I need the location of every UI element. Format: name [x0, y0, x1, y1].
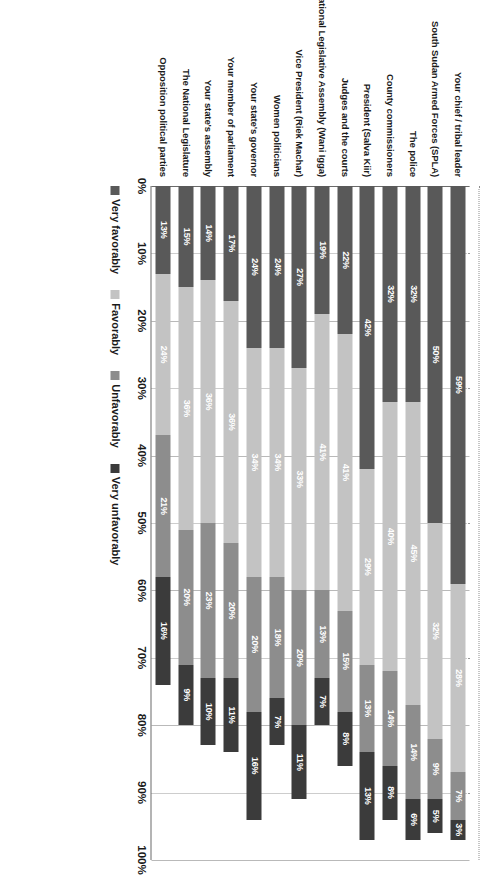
bar-segment-value: 40%: [385, 528, 394, 545]
bar-segment: 10%: [200, 678, 215, 745]
bar-segment-value: 7%: [272, 716, 281, 729]
category-label: President (Salva Kiir): [359, 0, 374, 182]
bar-segment-value: 14%: [408, 743, 417, 760]
bar-segment-value: 13%: [158, 221, 167, 238]
bar-segment: 32%: [427, 523, 442, 739]
bar-segment-value: 41%: [317, 444, 326, 461]
bar-segment: 34%: [269, 348, 284, 577]
legend-item[interactable]: Very favorably: [109, 186, 121, 274]
bar-segment-value: 10%: [203, 703, 212, 720]
plot-area: 59%28%7%3%50%32%9%5%32%45%14%6%32%40%14%…: [151, 186, 469, 860]
bar-segment: 20%: [223, 543, 238, 678]
bar-segment-value: 11%: [226, 707, 235, 724]
legend-label: Unfavorably: [109, 384, 121, 448]
bar-segment-value: 5%: [430, 810, 439, 823]
plot-top-border: [478, 186, 479, 860]
bar-row: 27%33%20%11%: [291, 186, 306, 860]
bar-segment: 19%: [314, 186, 329, 314]
bar-segment: 41%: [314, 314, 329, 590]
bar-segment: 9%: [427, 739, 442, 800]
category-label: Speaker of National Legislative Assembly…: [314, 0, 329, 182]
legend-swatch-icon: [111, 186, 120, 195]
legend-item[interactable]: Very unfavorably: [109, 464, 121, 566]
category-label: Your chief / tribal leader: [450, 0, 465, 182]
bar-segment-value: 6%: [408, 813, 417, 826]
bar-segment: 36%: [223, 301, 238, 544]
bar-segment-value: 29%: [362, 558, 371, 575]
bar-segment: 16%: [155, 577, 170, 685]
bar-segment: 15%: [178, 186, 193, 287]
bar-segment: 34%: [246, 348, 261, 577]
bar-segment: 14%: [405, 705, 420, 799]
bar-segment-value: 34%: [272, 454, 281, 471]
bar-segment-value: 18%: [272, 629, 281, 646]
bar-rows: 59%28%7%3%50%32%9%5%32%45%14%6%32%40%14%…: [151, 186, 469, 860]
category-label: The National Legislature: [178, 0, 193, 182]
legend-swatch-icon: [111, 371, 120, 380]
bar-segment: 24%: [155, 274, 170, 436]
bar-segment: 27%: [291, 186, 306, 368]
bar-segment-value: 59%: [453, 376, 462, 393]
bar-segment-value: 9%: [181, 689, 190, 702]
bar-segment-value: 16%: [158, 622, 167, 639]
bar-segment: 9%: [178, 665, 193, 726]
bar-segment-value: 20%: [181, 588, 190, 605]
bar-segment: 7%: [269, 698, 284, 745]
legend-item[interactable]: Favorably: [109, 290, 121, 355]
bar-segment: 21%: [155, 435, 170, 577]
bar-segment-value: 14%: [203, 224, 212, 241]
bar-segment: 13%: [359, 665, 374, 753]
bar-row: 50%32%9%5%: [427, 186, 442, 860]
bar-segment-value: 32%: [385, 285, 394, 302]
bar-segment-value: 3%: [453, 823, 462, 836]
bar-segment: 7%: [450, 772, 465, 819]
bar-segment-value: 21%: [158, 497, 167, 514]
bar-segment-value: 24%: [158, 346, 167, 363]
bar-segment: 15%: [337, 611, 352, 712]
bar-row: 15%36%20%9%: [178, 186, 193, 860]
value-axis-tick: 10%: [135, 242, 147, 265]
bar-segment-value: 36%: [181, 400, 190, 417]
bar-segment: 20%: [178, 530, 193, 665]
category-label: South Sudan Armed Forces (SPLA): [427, 0, 442, 182]
category-label: Your state's assembly: [200, 0, 215, 182]
bar-segment: 17%: [223, 186, 238, 301]
bar-row: 32%40%14%8%: [382, 186, 397, 860]
bar-row: 22%41%15%8%: [337, 186, 352, 860]
bar-segment: 45%: [405, 402, 420, 705]
bar-segment-value: 20%: [294, 649, 303, 666]
category-label: Your member of parliament: [223, 0, 238, 182]
bar-segment: 18%: [269, 577, 284, 698]
value-axis-tick: 30%: [135, 377, 147, 400]
bar-segment: 40%: [382, 402, 397, 672]
stacked-bar-chart: Your chief / tribal leaderSouth Sudan Ar…: [0, 0, 483, 878]
value-axis-tick-labels: 0%10%20%30%40%50%60%70%80%90%100%: [129, 186, 147, 860]
bar-segment: 32%: [405, 186, 420, 402]
gridline: [151, 860, 469, 861]
rotated-chart-stage: Your chief / tribal leaderSouth Sudan Ar…: [0, 0, 483, 878]
bar-segment-value: 45%: [408, 545, 417, 562]
bar-row: 24%34%20%16%: [246, 186, 261, 860]
bar-segment-value: 32%: [408, 285, 417, 302]
bar-segment-value: 42%: [362, 319, 371, 336]
bar-segment-value: 24%: [249, 258, 258, 275]
bar-segment-value: 20%: [226, 602, 235, 619]
legend-item[interactable]: Unfavorably: [109, 371, 121, 448]
bar-row: 32%45%14%6%: [405, 186, 420, 860]
bar-segment-value: 32%: [430, 622, 439, 639]
chart-legend: Very favorablyFavorablyUnfavorablyVery u…: [109, 186, 121, 860]
bar-segment-value: 34%: [249, 454, 258, 471]
bar-segment: 8%: [337, 712, 352, 766]
bar-segment: 11%: [223, 678, 238, 752]
bar-segment: 41%: [337, 334, 352, 610]
bar-segment: 29%: [359, 469, 374, 664]
bar-segment: 16%: [246, 712, 261, 820]
value-axis-tick: 70%: [135, 646, 147, 669]
bar-segment-value: 7%: [317, 695, 326, 708]
value-axis-tick: 100%: [135, 845, 147, 874]
category-label: Women politicians: [269, 0, 284, 182]
bar-segment-value: 41%: [340, 464, 349, 481]
bar-row: 14%36%23%10%: [200, 186, 215, 860]
bar-row: 17%36%20%11%: [223, 186, 238, 860]
value-axis-tick: 60%: [135, 579, 147, 602]
